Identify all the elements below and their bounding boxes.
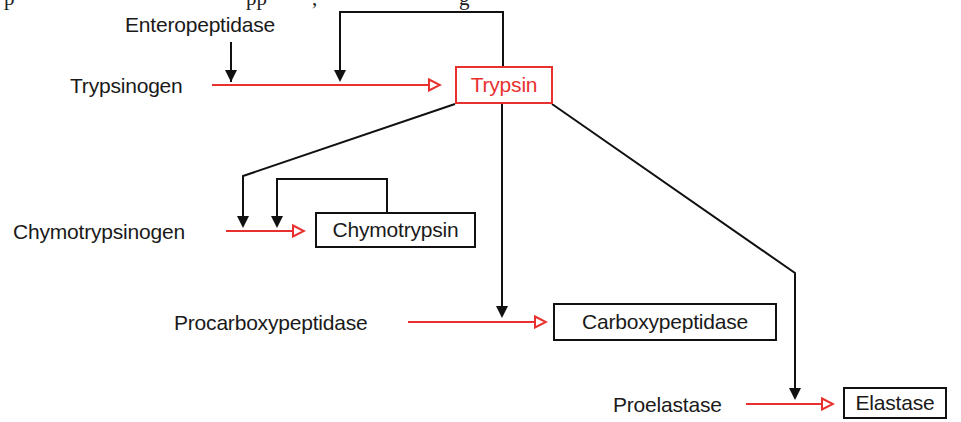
- box-carboxypeptidase: Carboxypeptidase: [553, 303, 777, 341]
- connector-layer: [0, 0, 961, 422]
- arrowhead-icon: [789, 388, 801, 400]
- label-proelastase: Proelastase: [613, 394, 722, 415]
- arrowhead-icon: [496, 306, 508, 318]
- arrowhead-icon: [237, 216, 249, 228]
- box-trypsin: Trypsin: [455, 66, 553, 104]
- arrowhead-icon: [334, 70, 346, 82]
- label-procarboxypeptidase: Procarboxypeptidase: [174, 312, 368, 333]
- box-chymotrypsin: Chymotrypsin: [315, 212, 476, 248]
- catalysis-arrow-trypsin-to-chymotrypsinogen: [243, 104, 455, 218]
- label-trypsinogen: Trypsinogen: [70, 75, 183, 96]
- zymogen-activation-diagram: p pp , g Enteropeptidase Trypsinogen Try…: [0, 0, 961, 422]
- arrowhead-icon: [225, 70, 237, 82]
- feedback-loop-trypsin: [340, 12, 503, 72]
- arrowhead-icon: [271, 216, 283, 228]
- label-enteropeptidase: Enteropeptidase: [125, 14, 275, 35]
- label-chymotrypsinogen: Chymotrypsinogen: [13, 221, 185, 242]
- catalysis-arrow-trypsin-to-proelastase: [552, 104, 795, 390]
- box-elastase: Elastase: [843, 387, 947, 419]
